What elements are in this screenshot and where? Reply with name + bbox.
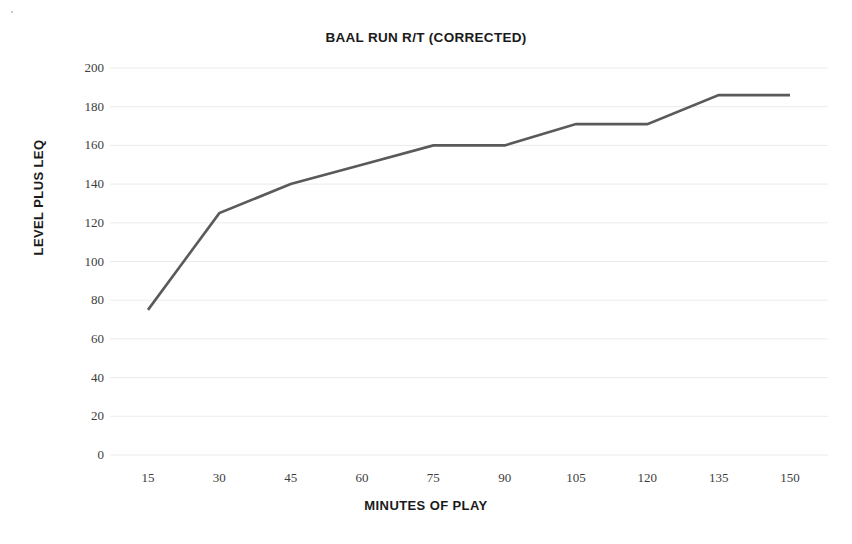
y-axis-tick-label: 120	[58, 215, 104, 231]
plot-area	[110, 68, 828, 455]
x-axis-tick-label: 90	[475, 470, 535, 486]
series-line-level-plus-leq	[148, 95, 790, 310]
x-axis-title: MINUTES OF PLAY	[0, 498, 852, 513]
chart-page: BAAL RUN R/T (CORRECTED) LEVEL PLUS LEQ …	[0, 0, 852, 544]
y-axis-tick-label: 140	[58, 176, 104, 192]
y-axis-tick-label: 160	[58, 137, 104, 153]
y-axis-tick-labels: 200180160140120100806040200	[52, 68, 104, 455]
x-axis-tick-label: 105	[546, 470, 606, 486]
scan-speck	[11, 11, 13, 13]
y-axis-tick-label: 100	[58, 254, 104, 270]
y-axis-tick-label: 0	[58, 447, 104, 463]
y-axis-tick-label: 200	[58, 60, 104, 76]
chart-title: BAAL RUN R/T (CORRECTED)	[0, 30, 852, 45]
x-axis-tick-label: 60	[332, 470, 392, 486]
y-axis-tick-label: 20	[58, 408, 104, 424]
x-axis-tick-label: 75	[403, 470, 463, 486]
x-axis-tick-label: 135	[689, 470, 749, 486]
x-axis-tick-label: 120	[617, 470, 677, 486]
data-series-line	[110, 68, 828, 455]
y-axis-tick-label: 180	[58, 99, 104, 115]
x-axis-tick-label: 150	[760, 470, 820, 486]
y-axis-tick-label: 80	[58, 292, 104, 308]
x-axis-tick-label: 45	[261, 470, 321, 486]
y-axis-tick-label: 40	[58, 370, 104, 386]
x-axis-tick-label: 30	[189, 470, 249, 486]
y-axis-title: LEVEL PLUS LEQ	[31, 98, 46, 298]
x-axis-tick-label: 15	[118, 470, 178, 486]
x-axis-tick-labels: 153045607590105120135150	[110, 470, 828, 490]
y-axis-tick-label: 60	[58, 331, 104, 347]
